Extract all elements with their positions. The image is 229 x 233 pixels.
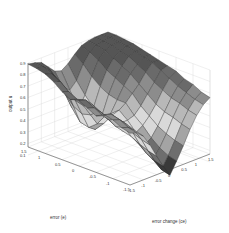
y-axis-label: error change (ce) (152, 219, 187, 224)
svg-text:1.5: 1.5 (208, 157, 214, 162)
svg-text:-0.5: -0.5 (89, 174, 97, 179)
svg-text:0.2: 0.2 (20, 141, 26, 146)
surface-mesh (28, 32, 210, 175)
svg-text:1: 1 (195, 162, 198, 167)
svg-text:0.5: 0.5 (55, 162, 61, 167)
svg-text:1: 1 (38, 155, 41, 160)
svg-text:-1.5: -1.5 (128, 188, 136, 193)
z-axis-label: output u (8, 95, 13, 112)
svg-text:0: 0 (72, 168, 75, 173)
svg-text:0.8: 0.8 (20, 72, 26, 77)
svg-text:0.7: 0.7 (20, 84, 26, 89)
svg-text:0.4: 0.4 (20, 118, 26, 123)
svg-text:0.9: 0.9 (20, 61, 26, 66)
svg-text:0.3: 0.3 (20, 130, 26, 135)
svg-text:0.5: 0.5 (20, 107, 26, 112)
svg-text:0.6: 0.6 (20, 95, 26, 100)
svg-text:0.1: 0.1 (20, 153, 26, 158)
svg-text:-0.5: -0.5 (155, 178, 163, 183)
svg-text:-1: -1 (141, 183, 145, 188)
svg-text:0.5: 0.5 (181, 167, 187, 172)
svg-text:-1: -1 (106, 181, 110, 186)
surface-plot: -1.5-1-0.500.511.5-1.5-1-0.500.511.50.10… (0, 0, 229, 233)
x-axis-label: error (e) (50, 215, 67, 220)
